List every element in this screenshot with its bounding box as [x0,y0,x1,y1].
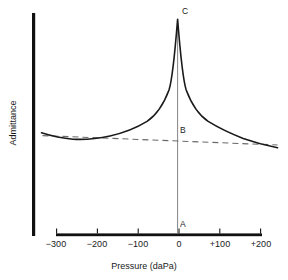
annotation-label-b: B [180,126,186,135]
x-tick-label-plus200: +200 [251,239,271,249]
x-tick-label-zero: 0 [176,239,181,249]
x-tick-label-minus100: −100 [128,239,148,249]
x-tick-label-minus200: −200 [87,239,107,249]
x-axis-bar [56,233,262,236]
x-tick-label-plus100: +100 [210,239,230,249]
x-tick-label-minus300: −300 [46,239,66,249]
tympanogram-chart: −300 −200 −100 0 +100 +200 C B A Pressur… [0,0,288,280]
y-axis-title: Admittance [8,86,18,160]
y-axis-bar [32,13,35,236]
x-axis-ticks [57,228,261,233]
annotation-label-a: A [180,220,186,229]
chart-plot-area [0,0,288,280]
baseline-dashed-line [43,136,278,145]
annotation-label-c: C [182,7,188,16]
x-axis-title: Pressure (daPa) [0,261,288,271]
admittance-curve [42,19,278,148]
